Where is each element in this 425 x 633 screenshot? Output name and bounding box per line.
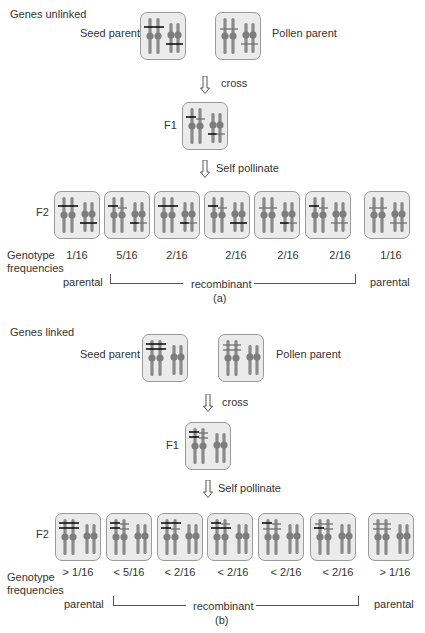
f1-label: F1 (166, 439, 179, 451)
frequency-4: 2/16 (211, 249, 261, 261)
panel-a-caption: (a) (213, 292, 226, 304)
recombinant-bracket-left (110, 274, 183, 284)
f2-label: F2 (36, 528, 49, 540)
recombinant-bracket-right (254, 274, 356, 284)
f2-genotype-7 (364, 191, 410, 239)
f2-genotype-6 (310, 513, 356, 561)
f2-genotype-1 (54, 191, 100, 239)
f2-genotype-5 (258, 513, 304, 561)
cross-label: cross (221, 77, 247, 89)
f1-genotype (182, 102, 228, 150)
seed-parent-label: Seed parent (80, 27, 140, 39)
f2-genotype-2 (106, 513, 152, 561)
frequency-5: < 2/16 (261, 566, 311, 578)
cross-label: cross (222, 396, 248, 408)
frequency-3: 2/16 (152, 249, 202, 261)
frequency-1: > 1/16 (53, 566, 103, 578)
parental-right-label: parental (374, 598, 414, 610)
recombinant-bracket-left (113, 596, 186, 606)
self-pollinate-label: Self pollinate (218, 482, 281, 494)
f1-genotype (185, 422, 231, 470)
f2-genotype-3 (157, 513, 203, 561)
frequency-1: 1/16 (52, 249, 102, 261)
down-arrow-icon (203, 480, 213, 498)
f2-genotype-4 (204, 191, 250, 239)
f2-genotype-7 (368, 513, 414, 561)
f2-genotype-5 (254, 191, 300, 239)
frequency-4: < 2/16 (208, 566, 258, 578)
f2-label: F2 (36, 206, 49, 218)
recombinant-label: recombinant (191, 278, 252, 290)
f2-genotype-6 (305, 191, 351, 239)
panel-a-title: Genes unlinked (10, 8, 86, 20)
frequency-2: 5/16 (102, 249, 152, 261)
frequency-7: > 1/16 (370, 566, 420, 578)
f2-genotype-3 (154, 191, 200, 239)
pollen-parent-genotype (218, 334, 264, 382)
parental-left-label: parental (63, 276, 103, 288)
down-arrow-icon (203, 394, 213, 412)
genotype-label-line2: frequencies (7, 584, 64, 597)
self-pollinate-label: Self pollinate (216, 162, 279, 174)
frequency-2: < 5/16 (104, 566, 154, 578)
f2-genotype-1 (55, 513, 101, 561)
frequency-6: 2/16 (315, 249, 365, 261)
down-arrow-icon (200, 160, 210, 178)
f2-genotype-4 (207, 513, 253, 561)
parental-right-label: parental (370, 276, 410, 288)
frequency-6: < 2/16 (313, 566, 363, 578)
parental-left-label: parental (64, 598, 104, 610)
pollen-parent-label: Pollen parent (276, 348, 341, 360)
f2-genotype-2 (104, 191, 150, 239)
seed-parent-genotype (140, 12, 186, 60)
recombinant-label: recombinant (193, 600, 254, 612)
seed-parent-label: Seed parent (80, 348, 140, 360)
panel-b-title: Genes linked (10, 326, 74, 338)
seed-parent-genotype (142, 334, 188, 382)
frequency-3: < 2/16 (155, 566, 205, 578)
genotype-label-line2: frequencies (7, 262, 64, 275)
f1-label: F1 (164, 119, 177, 131)
pollen-parent-genotype (215, 12, 261, 60)
pollen-parent-label: Pollen parent (272, 27, 337, 39)
down-arrow-icon (200, 76, 210, 94)
panel-b-caption: (b) (215, 614, 228, 626)
frequency-7: 1/16 (366, 249, 416, 261)
frequency-5: 2/16 (263, 249, 313, 261)
recombinant-bracket-right (256, 596, 359, 606)
